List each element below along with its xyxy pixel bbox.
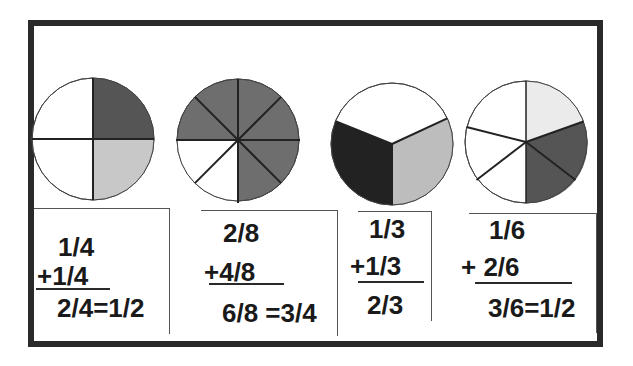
problem4-result: 3/6=1/2 [488, 295, 575, 321]
box3-right-line [431, 211, 432, 321]
problem2-addend2: +4/8 [204, 259, 255, 285]
box1-top-line [34, 208, 170, 209]
fraction-circle-eighths [176, 79, 300, 203]
problem3-addend1: 1/3 [369, 216, 405, 242]
box2-top-line [201, 210, 337, 211]
problem4-sum-line [475, 282, 572, 284]
box3-top-line [358, 211, 431, 212]
problem2-sum-line [209, 283, 284, 285]
problem3-addend2: +1/3 [350, 253, 401, 279]
problem1-addend2: +1/4 [37, 263, 88, 289]
problem2-result: 6/8 =3/4 [222, 300, 317, 326]
problem2-addend1: 2/8 [223, 220, 259, 246]
problem1-result: 2/4=1/2 [57, 295, 144, 321]
problem1-addend1: 1/4 [58, 234, 94, 260]
box2-right-line [337, 210, 338, 336]
fraction-circle-sixths [465, 81, 588, 203]
problem1-sum-line [36, 288, 110, 290]
problem4-addend1: 1/6 [489, 217, 525, 243]
problem3-result: 2/3 [367, 292, 403, 318]
box1-right-line [169, 208, 170, 334]
box4-top-line [469, 213, 597, 214]
box4-right-line [596, 213, 597, 333]
problem3-sum-line [358, 281, 424, 283]
problem4-addend2: + 2/6 [461, 254, 520, 280]
fraction-circle-thirds [331, 83, 453, 205]
fraction-circle-quarters [32, 78, 154, 200]
